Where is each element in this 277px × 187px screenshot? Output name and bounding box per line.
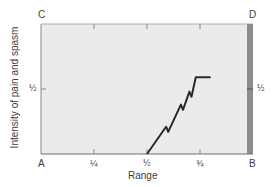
y-axis-title: Intensity of pain and spasm [9,23,20,153]
x-tick-label-quarter: ¼ [90,158,98,168]
x-tick-label-half: ½ [143,158,151,168]
y-tick-label-right-half: ½ [257,83,265,93]
x-tick-label-three-quarter: ¾ [196,158,204,168]
corner-label-a: A [38,158,45,169]
corner-label-c: C [38,9,45,20]
corner-label-b: B [249,158,256,169]
plot-area [41,24,253,154]
x-axis-title: Range [128,170,157,181]
y-tick-label-left-half: ½ [29,83,37,93]
corner-label-d: D [249,9,256,20]
